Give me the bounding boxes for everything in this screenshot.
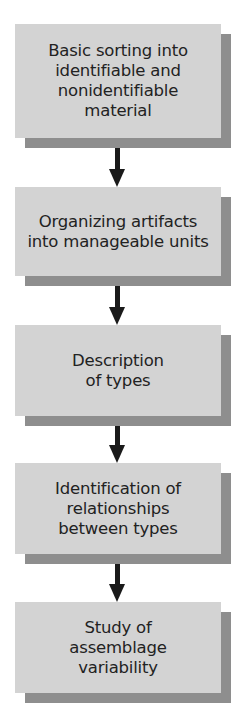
flowchart: Basic sorting into identifiable and noni… (0, 0, 247, 725)
flow-step-4: Identification of relationships between … (15, 463, 221, 554)
step-box: Identification of relationships between … (15, 463, 221, 554)
step-label: Organizing artifacts into manageable uni… (26, 212, 211, 252)
flow-step-5: Study of assemblage variability (15, 602, 221, 693)
flow-step-3: Description of types (15, 325, 221, 416)
step-label: Identification of relationships between … (43, 479, 193, 539)
down-arrow-icon (109, 426, 126, 463)
flow-step-1: Basic sorting into identifiable and noni… (15, 24, 221, 138)
step-label: Basic sorting into identifiable and noni… (43, 41, 193, 121)
step-box: Study of assemblage variability (15, 602, 221, 693)
flow-step-2: Organizing artifacts into manageable uni… (15, 187, 221, 276)
down-arrow-icon (109, 564, 126, 602)
step-label: Study of assemblage variability (63, 618, 173, 678)
step-box: Organizing artifacts into manageable uni… (15, 187, 221, 276)
down-arrow-icon (109, 286, 126, 325)
step-box: Description of types (15, 325, 221, 416)
down-arrow-icon (109, 148, 126, 187)
step-label: Description of types (63, 351, 173, 391)
step-box: Basic sorting into identifiable and noni… (15, 24, 221, 138)
